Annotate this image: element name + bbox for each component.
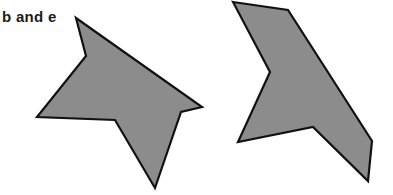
polygon-shape-e [233, 2, 372, 181]
polygon-shape-b [37, 18, 202, 188]
shapes-canvas [0, 0, 393, 195]
